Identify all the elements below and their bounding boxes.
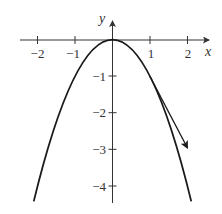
chart: −2 −1 1 2 −1 −2 −3 −4 x y [0, 0, 222, 214]
tangent-arrow [150, 77, 188, 148]
x-tick-label: −2 [31, 46, 45, 61]
y-tick-label: −4 [92, 179, 106, 194]
x-tick-label: 2 [185, 46, 192, 61]
y-tick-label: −2 [92, 105, 106, 120]
x-tick-label: 1 [148, 46, 155, 61]
y-axis-label: y [97, 11, 106, 26]
x-axis-label: x [204, 44, 212, 59]
y-tick-label: −1 [92, 69, 106, 84]
x-tick-label: −1 [66, 46, 80, 61]
y-tick-label: −3 [92, 142, 106, 157]
